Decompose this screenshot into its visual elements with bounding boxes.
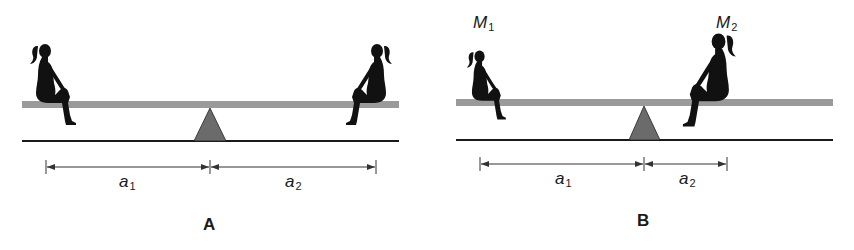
label-symbol: a — [679, 169, 688, 188]
panel-label-b: B — [637, 211, 649, 231]
panel-a — [22, 44, 399, 174]
label-symbol: M — [716, 13, 730, 32]
label-subscript: 1 — [488, 21, 494, 33]
mass-label-m2: M2 — [716, 13, 737, 33]
girl-silhouette-m2 — [683, 33, 736, 126]
girl-silhouette-left-a — [30, 44, 76, 125]
panel-label-a: A — [203, 215, 215, 235]
girl-silhouette-right-a — [346, 44, 392, 125]
seesaw-diagram — [0, 0, 854, 250]
label-symbol: a — [285, 172, 294, 191]
fulcrum-b — [629, 106, 660, 140]
dimension-lines-a — [46, 160, 376, 174]
label-symbol: a — [119, 172, 128, 191]
mass-label-m1: M1 — [473, 13, 494, 33]
label-subscript: 2 — [689, 177, 695, 189]
distance-label-a2-panel-a: a2 — [285, 172, 302, 192]
label-subscript: 2 — [295, 180, 301, 192]
label-subscript: 1 — [565, 177, 571, 189]
label-symbol: a — [555, 169, 564, 188]
distance-label-a2-panel-b: a2 — [679, 169, 696, 189]
label-subscript: 1 — [129, 180, 135, 192]
distance-label-a1-panel-b: a1 — [555, 169, 572, 189]
girl-silhouette-m1 — [467, 51, 506, 120]
plank-a — [22, 101, 399, 108]
distance-label-a1-panel-a: a1 — [119, 172, 136, 192]
fulcrum-a — [194, 108, 226, 141]
label-symbol: M — [473, 13, 487, 32]
plank-b — [456, 99, 833, 106]
panel-b — [456, 33, 833, 171]
label-subscript: 2 — [731, 21, 737, 33]
